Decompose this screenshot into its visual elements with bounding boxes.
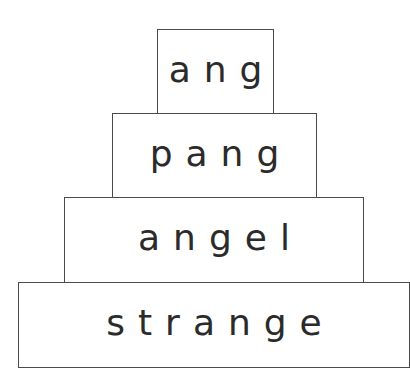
pyramid-row-2: pang (112, 113, 317, 198)
word-ang: ang (156, 52, 276, 88)
pyramid-row-3: angel (64, 197, 364, 283)
pyramid-row-1: ang (157, 29, 274, 114)
word-angel: angel (125, 220, 303, 256)
word-pang: pang (137, 136, 293, 172)
pyramid-row-4: strange (18, 282, 410, 368)
word-strange: strange (93, 305, 335, 341)
